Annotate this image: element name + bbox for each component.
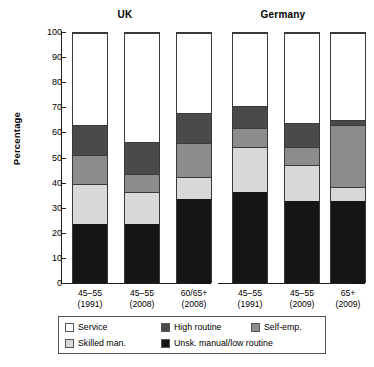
- x-axis-label-line2: (2009): [320, 299, 374, 310]
- bar-segment: [125, 224, 159, 284]
- bar-segment: [233, 192, 267, 284]
- bar-segment: [233, 147, 267, 192]
- y-tick-label-40: 40: [38, 178, 62, 187]
- legend-item: Service: [65, 320, 107, 334]
- y-axis-tick-labels: 1009080706050403020100: [32, 32, 62, 283]
- x-axis-label-line2: (2008): [166, 299, 222, 310]
- bar-segment: [73, 33, 107, 125]
- bar-segment: [73, 155, 107, 184]
- legend-swatch-icon: [251, 323, 260, 332]
- bar-stack: [124, 32, 160, 283]
- x-axis-label-line1: 45–55: [78, 288, 102, 298]
- legend-item: Unsk. manual/low routine: [161, 336, 273, 350]
- x-axis-label-line1: 65+: [341, 288, 356, 298]
- y-tick-label-70: 70: [38, 103, 62, 112]
- bar-segment: [73, 224, 107, 284]
- bar-stack: [72, 32, 108, 283]
- x-axis-label-line1: 45–55: [238, 288, 262, 298]
- bar-segment: [177, 113, 211, 143]
- chart-legend: ServiceHigh routineSelf-emp. Skilled man…: [58, 316, 326, 354]
- x-axis-label-line1: 60/65+: [181, 288, 208, 298]
- y-tick-label-60: 60: [38, 128, 62, 137]
- legend-item: Skilled man.: [65, 336, 126, 350]
- bar-stack: [284, 32, 320, 283]
- x-axis-label: 45–55(1991): [222, 288, 278, 310]
- legend-label: Unsk. manual/low routine: [174, 338, 273, 348]
- y-tick-label-100: 100: [38, 28, 62, 37]
- legend-swatch-icon: [161, 339, 170, 348]
- y-tick-label-80: 80: [38, 78, 62, 87]
- y-axis-label: Percentage: [11, 79, 22, 199]
- bar-segment: [177, 33, 211, 113]
- bar-segment: [73, 184, 107, 224]
- legend-swatch-icon: [161, 323, 170, 332]
- x-axis-label-line1: 45–55: [130, 288, 154, 298]
- legend-item: Self-emp.: [251, 320, 302, 334]
- legend-row: ServiceHigh routineSelf-emp.: [65, 320, 321, 335]
- bar-segment: [285, 147, 319, 165]
- bar-segment: [233, 106, 267, 129]
- bar-segment: [125, 174, 159, 193]
- legend-label: Self-emp.: [264, 322, 302, 332]
- bar-segment: [125, 142, 159, 173]
- legend-label: Skilled man.: [78, 338, 126, 348]
- x-axis-label-line1: 45–55: [290, 288, 314, 298]
- legend-label: High routine: [174, 322, 221, 332]
- x-axis-label: 45–55(1991): [62, 288, 118, 310]
- bar-segment: [125, 33, 159, 142]
- bar-segment: [285, 33, 319, 123]
- bar-segment: [285, 201, 319, 284]
- stacked-bar-chart: UK Germany Percentage 100908070605040302…: [0, 0, 374, 367]
- x-axis-baseline-uk: [62, 283, 192, 284]
- y-tick-label-90: 90: [38, 53, 62, 62]
- plot-area: [62, 32, 352, 283]
- group-title-uk: UK: [60, 9, 190, 20]
- bar-stack: [330, 32, 366, 283]
- legend-row: Skilled man.Unsk. manual/low routine: [65, 336, 321, 351]
- x-axis-label: 60/65+(2008): [166, 288, 222, 310]
- x-axis-label: 45–55(2008): [114, 288, 170, 310]
- x-axis-label-line2: (2008): [114, 299, 170, 310]
- legend-swatch-icon: [65, 339, 74, 348]
- bar-segment: [331, 120, 365, 125]
- bar-segment: [331, 187, 365, 201]
- bar-segment: [233, 33, 267, 106]
- legend-item: High routine: [161, 320, 221, 334]
- bar-segment: [331, 201, 365, 284]
- y-tick-label-50: 50: [38, 153, 62, 162]
- legend-swatch-icon: [65, 323, 74, 332]
- y-tick-label-0: 0: [38, 279, 62, 288]
- y-tick-label-20: 20: [38, 228, 62, 237]
- x-axis-label: 65+(2009): [320, 288, 374, 310]
- bar-segment: [285, 123, 319, 147]
- bar-segment: [73, 125, 107, 155]
- bar-segment: [177, 177, 211, 198]
- bar-segment: [233, 128, 267, 147]
- group-title-germany: Germany: [218, 9, 348, 20]
- bar-stack: [176, 32, 212, 283]
- bar-segment: [285, 165, 319, 201]
- x-axis-label-line2: (1991): [62, 299, 118, 310]
- bar-segment: [331, 33, 365, 120]
- bar-segment: [125, 192, 159, 223]
- legend-label: Service: [78, 322, 107, 332]
- y-tick-label-30: 30: [38, 203, 62, 212]
- bar-stack: [232, 32, 268, 283]
- bar-segment: [177, 143, 211, 177]
- x-axis-label-line2: (1991): [222, 299, 278, 310]
- bar-segment: [177, 199, 211, 284]
- y-tick-label-10: 10: [38, 253, 62, 262]
- bar-segment: [331, 125, 365, 188]
- x-axis-baseline-germany: [218, 283, 350, 284]
